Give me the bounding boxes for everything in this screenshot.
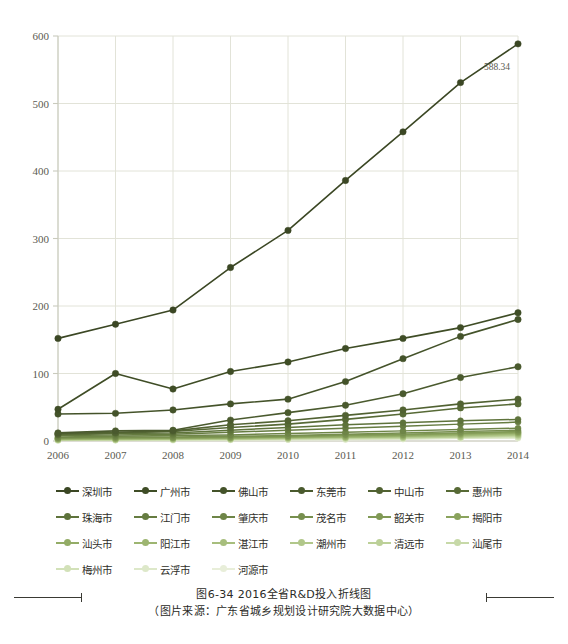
legend-label: 肇庆市: [238, 510, 269, 525]
legend-item-肇庆市[interactable]: 肇庆市: [212, 510, 290, 525]
legend-label: 揭阳市: [472, 510, 503, 525]
y-tick-label: 200: [33, 300, 50, 312]
legend-label: 清远市: [394, 536, 425, 551]
legend-marker-icon: [134, 538, 157, 548]
series-point: [170, 307, 176, 313]
series-point: [55, 335, 61, 341]
legend-marker-icon: [290, 512, 313, 522]
series-point: [515, 416, 521, 422]
x-tick-label: 2006: [47, 449, 70, 461]
legend-item-广州市[interactable]: 广州市: [134, 484, 212, 499]
legend-marker-icon: [134, 564, 157, 574]
legend-item-湛江市[interactable]: 湛江市: [212, 536, 290, 551]
line-chart: 0100200300400500600 20062007200820092010…: [0, 0, 568, 470]
legend-marker-icon: [446, 538, 469, 548]
legend-item-东莞市[interactable]: 东莞市: [290, 484, 368, 499]
x-tick-label: 2008: [162, 449, 185, 461]
legend-label: 深圳市: [82, 484, 113, 499]
legend-marker-icon: [368, 486, 391, 496]
legend-label: 汕尾市: [472, 536, 503, 551]
y-tick-label: 100: [33, 368, 50, 380]
data-label-annotations: 588.34: [484, 62, 510, 72]
series-point: [515, 364, 521, 370]
series-point: [227, 264, 233, 270]
legend-item-阳江市[interactable]: 阳江市: [134, 536, 212, 551]
legend-marker-icon: [56, 486, 79, 496]
series-point: [170, 386, 176, 392]
legend-item-清远市[interactable]: 清远市: [368, 536, 446, 551]
series-point: [112, 370, 118, 376]
chart-svg: 0100200300400500600 20062007200820092010…: [0, 0, 568, 470]
legend-marker-icon: [368, 538, 391, 548]
legend-label: 惠州市: [472, 484, 503, 499]
x-tick-label: 2012: [392, 449, 414, 461]
series-point: [170, 427, 176, 433]
legend-item-江门市[interactable]: 江门市: [134, 510, 212, 525]
series-point: [112, 410, 118, 416]
legend-label: 东莞市: [316, 484, 347, 499]
series-point: [342, 345, 348, 351]
x-axis-tick-labels: 200620072008200920102011201220132014: [47, 449, 530, 461]
legend-label: 云浮市: [160, 562, 191, 577]
legend-label: 河源市: [238, 562, 269, 577]
legend-marker-icon: [290, 486, 313, 496]
caption-title: 图6-34 2016全省R&D投入折线图: [0, 586, 568, 603]
legend-marker-icon: [56, 538, 79, 548]
legend-item-深圳市[interactable]: 深圳市: [56, 484, 134, 499]
x-tick-label: 2007: [105, 449, 128, 461]
series-point: [112, 428, 118, 434]
legend-item-梅州市[interactable]: 梅州市: [56, 562, 134, 577]
legend-item-汕头市[interactable]: 汕头市: [56, 536, 134, 551]
series-point: [342, 378, 348, 384]
series-point: [400, 391, 406, 397]
legend-item-云浮市[interactable]: 云浮市: [134, 562, 212, 577]
series-point: [515, 310, 521, 316]
legend-item-佛山市[interactable]: 佛山市: [212, 484, 290, 499]
legend-item-汕尾市[interactable]: 汕尾市: [446, 536, 524, 551]
series-point: [285, 409, 291, 415]
legend-item-惠州市[interactable]: 惠州市: [446, 484, 524, 499]
y-tick-label: 500: [33, 98, 50, 110]
y-tick-label: 600: [33, 30, 50, 42]
legend-item-珠海市[interactable]: 珠海市: [56, 510, 134, 525]
series-point: [285, 359, 291, 365]
legend-row: 珠海市江门市肇庆市茂名市韶关市揭阳市: [56, 504, 526, 530]
series-point: [457, 333, 463, 339]
series-point: [227, 417, 233, 423]
series-point: [458, 418, 464, 424]
series-point: [457, 374, 463, 380]
legend-label: 珠海市: [82, 510, 113, 525]
series-point: [285, 396, 291, 402]
legend-label: 江门市: [160, 510, 191, 525]
series-point: [285, 227, 291, 233]
legend-marker-icon: [290, 538, 313, 548]
legend-marker-icon: [134, 512, 157, 522]
legend-item-揭阳市[interactable]: 揭阳市: [446, 510, 524, 525]
x-tick-label: 2011: [335, 449, 357, 461]
y-tick-label: 300: [33, 233, 50, 245]
series-point: [457, 324, 463, 330]
legend-item-潮州市[interactable]: 潮州市: [290, 536, 368, 551]
x-tick-label: 2014: [507, 449, 530, 461]
legend-row: 深圳市广州市佛山市东莞市中山市惠州市: [56, 478, 526, 504]
series-point: [400, 407, 406, 413]
y-axis-tick-labels: 0100200300400500600: [33, 30, 50, 447]
legend-label: 汕头市: [82, 536, 113, 551]
legend-item-中山市[interactable]: 中山市: [368, 484, 446, 499]
series-point: [458, 427, 464, 433]
series-point: [400, 355, 406, 361]
legend-item-韶关市[interactable]: 韶关市: [368, 510, 446, 525]
legend-item-河源市[interactable]: 河源市: [212, 562, 290, 577]
series-point: [515, 425, 521, 431]
legend-marker-icon: [212, 538, 235, 548]
x-tick-label: 2009: [220, 449, 243, 461]
legend-label: 茂名市: [316, 510, 347, 525]
y-tick-label: 400: [33, 165, 50, 177]
x-tick-label: 2010: [277, 449, 300, 461]
legend-item-茂名市[interactable]: 茂名市: [290, 510, 368, 525]
series-point: [342, 177, 348, 183]
series-point: [285, 418, 291, 424]
legend-label: 潮州市: [316, 536, 347, 551]
series-point: [342, 402, 348, 408]
series-point: [457, 401, 463, 407]
